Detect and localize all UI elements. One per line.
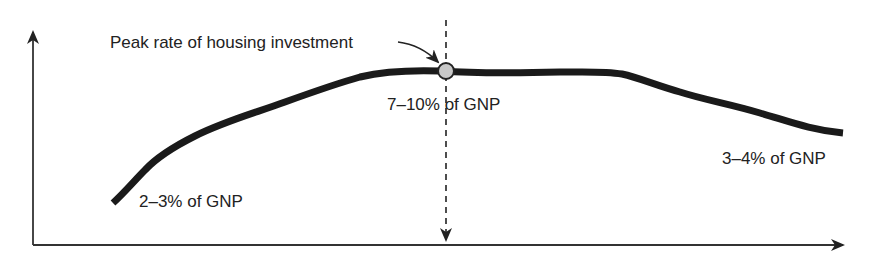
- peak-value-label: 7–10% of GNP: [387, 96, 500, 113]
- peak-annotation-label: Peak rate of housing investment: [110, 34, 353, 51]
- end-value-label: 3–4% of GNP: [722, 150, 826, 167]
- start-value-label: 2–3% of GNP: [139, 193, 243, 210]
- annotation-arrow: [398, 42, 438, 62]
- housing-investment-curve: [113, 71, 843, 203]
- peak-marker: [438, 63, 454, 79]
